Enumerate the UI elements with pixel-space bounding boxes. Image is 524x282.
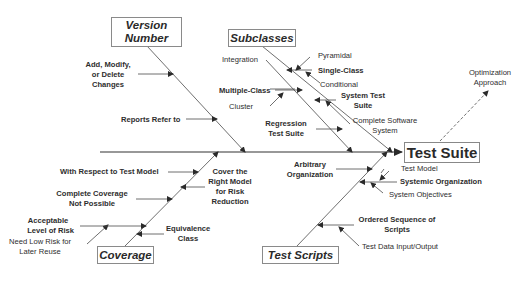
text-line: Add, Modify, [82,60,134,70]
coverage-label: Coverage [99,249,151,262]
text-line: Approach [465,78,515,88]
cause-system-objectives: System Objectives [389,190,452,200]
text-line: System Test [338,91,388,101]
text-line: Test Suite [264,129,308,139]
text-line: Ordered Sequence of [357,215,437,225]
category-subclasses: Subclasses [228,29,296,47]
cause-integration: Integration [222,55,258,65]
text-line: Acceptable [22,216,74,226]
text-line: System [352,126,418,136]
cause-acceptable-level-of-risk: Acceptable Level of Risk [22,216,74,236]
cause-complete-software-system: Complete Software System [352,116,418,136]
text-line: Cover the [208,167,252,177]
cause-with-respect-to-test-model: With Respect to Test Model [60,167,159,177]
cause-test-data-input-output: Test Data Input/Output [362,242,438,252]
cause-reports-refer-to: Reports Refer to [121,115,181,125]
cause-complete-coverage: Complete Coverage Not Possible [55,189,129,209]
text-line: Level of Risk [22,226,74,236]
text-line: or Delete [82,70,134,80]
category-test-scripts: Test Scripts [262,246,339,264]
text-line: Right Model [208,177,252,187]
text-line: Suite [338,101,388,111]
cause-systemic-organization: Systemic Organization [400,177,482,187]
cause-add-modify-delete: Add, Modify, or Delete Changes [82,60,134,90]
text-line: Organization [285,170,335,180]
text-line: for Risk [208,187,252,197]
version-number-line1: Version [126,19,168,32]
text-line: Scripts [357,225,437,235]
test-scripts-label: Test Scripts [268,249,333,262]
cause-arbitrary-organization: Arbitrary Organization [285,160,335,180]
cause-equivalence-class: Equivalence Class [166,224,210,244]
text-line: Changes [82,80,134,90]
text-line: Not Possible [55,199,129,209]
category-version-number: Version Number [111,17,182,47]
text-line: Arbitrary [285,160,335,170]
text-line: Equivalence [166,224,210,234]
cause-conditional: Conditional [320,80,358,90]
text-line: Class [166,234,210,244]
text-line: Later Reuse [7,247,73,257]
text-line: Complete Software [352,116,418,126]
effect-test-suite: Test Suite [404,142,480,163]
cause-cluster: Cluster [229,102,253,112]
cause-system-test-suite: System Test Suite [338,91,388,111]
text-line: Optimization [465,68,515,78]
version-number-line2: Number [125,32,168,45]
category-coverage: Coverage [97,246,154,264]
cause-cover-right-model: Cover the Right Model for Risk Reduction [208,167,252,207]
cause-regression-test-suite: Regression Test Suite [264,119,308,139]
optimization-approach: Optimization Approach [465,68,515,88]
text-line: Reduction [208,197,252,207]
cause-test-model: Test Model [401,164,438,174]
cause-pyramidal: Pyramidal [318,51,352,61]
cause-ordered-sequence: Ordered Sequence of Scripts [357,215,437,235]
cause-single-class: Single-Class [318,66,364,76]
subclasses-label: Subclasses [230,32,293,45]
text-line: Regression [264,119,308,129]
cause-multiple-class: Multiple-Class [219,86,270,96]
cause-need-low-risk: Need Low Risk for Later Reuse [7,237,73,257]
text-line: Need Low Risk for [7,237,73,247]
test-suite-label: Test Suite [407,144,478,161]
text-line: Complete Coverage [55,189,129,199]
